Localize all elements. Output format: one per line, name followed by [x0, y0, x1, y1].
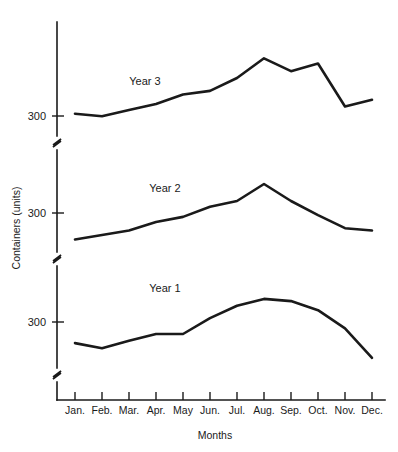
- series-line-year1: [75, 299, 372, 358]
- x-tick-label-jul: Jul.: [229, 404, 245, 416]
- series-label-year2: Year 2: [149, 182, 180, 194]
- x-tick-label-nov: Nov.: [335, 404, 356, 416]
- axis-break-mark-middle: [53, 255, 61, 263]
- axis-break-mark-lower: [53, 371, 61, 379]
- line-chart-figure: 300 300 300 Containers (units) Jan. Feb.…: [0, 0, 398, 452]
- x-tick-label-oct: Oct.: [308, 404, 327, 416]
- axis-break-mark-upper: [53, 139, 61, 147]
- y-tick-label-year1: 300: [28, 316, 46, 328]
- series-line-year2: [75, 184, 372, 240]
- x-tick-label-apr: Apr.: [147, 404, 166, 416]
- series-label-year3: Year 3: [129, 75, 160, 87]
- x-tick-label-dec: Dec.: [361, 404, 383, 416]
- x-tick-label-feb: Feb.: [91, 404, 112, 416]
- x-tick-label-mar: Mar.: [119, 404, 139, 416]
- x-tick-label-jan: Jan.: [65, 404, 85, 416]
- x-axis-title: Months: [198, 429, 232, 441]
- x-tick-label-sep: Sep.: [280, 404, 302, 416]
- y-tick-label-year3: 300: [28, 110, 46, 122]
- series-line-year3: [75, 58, 372, 116]
- x-tick-label-may: May: [173, 404, 194, 416]
- series-label-year1: Year 1: [149, 282, 180, 294]
- chart-canvas: 300 300 300 Containers (units) Jan. Feb.…: [0, 0, 398, 452]
- x-tick-label-jun: Jun.: [200, 404, 220, 416]
- y-axis: 300 300 300 Containers (units): [10, 22, 64, 400]
- y-tick-label-year2: 300: [28, 207, 46, 219]
- y-axis-title: Containers (units): [10, 187, 22, 270]
- x-axis: Jan. Feb. Mar. Apr. May Jun. Jul. Aug. S…: [57, 392, 385, 441]
- x-tick-label-aug: Aug.: [253, 404, 275, 416]
